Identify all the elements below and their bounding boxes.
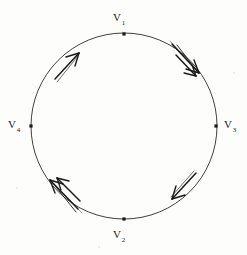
arrow-upper-left-icon [55,53,79,82]
arrow-lower-right-icon [171,171,196,199]
vertex-dot-v2 [122,217,125,220]
vertex-label-v1: V1 [113,11,125,26]
arrow-lower-left-inner-icon [57,178,80,201]
arrow-upper-right-outer-icon [172,44,199,73]
scan-speck [98,246,100,248]
arrow-upper-right-tail [170,41,197,70]
vertex-label-v3-sub: 3 [233,126,237,134]
figure-canvas: V1 V3 V2 V4 [0,0,247,255]
vertex-label-v3-text: V [224,118,232,130]
vertex-label-v2-text: V [113,228,121,240]
arrow-lower-right-group [171,171,196,199]
arrow-upper-left-group [55,53,79,82]
vertex-label-v1-sub: 1 [122,19,126,27]
vertex-dot-v3 [214,124,217,127]
vertex-label-v2: V2 [113,228,125,243]
vertex-label-v4-sub: 4 [17,126,21,134]
scan-speck [233,72,235,74]
vertex-dot-v4 [29,124,32,127]
vertex-label-v2-sub: 2 [122,236,126,244]
vertex-label-v4: V4 [8,118,20,133]
cycle-diagram [0,0,247,255]
vertex-dot-v1 [122,32,125,35]
scan-speck [16,187,18,189]
arrow-lower-left-group [50,178,82,213]
vertex-label-v3: V3 [224,118,236,133]
vertex-label-v4-text: V [8,118,16,130]
arrow-upper-right-group [170,41,199,76]
vertex-label-v1-text: V [113,11,121,23]
